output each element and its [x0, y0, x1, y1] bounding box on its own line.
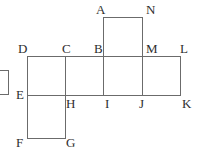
- vertex-label-j: J: [139, 97, 144, 110]
- vertex-label-h: H: [66, 97, 75, 110]
- vertex-label-k: K: [182, 97, 191, 110]
- vertex-label-c: C: [62, 42, 71, 55]
- vertex-label-f: F: [16, 136, 23, 149]
- vertex-label-g: G: [66, 136, 75, 149]
- vertex-label-i: I: [105, 97, 109, 110]
- segment-group: [0, 18, 181, 139]
- vertex-label-e: E: [16, 88, 24, 101]
- vertex-label-l: L: [180, 42, 188, 55]
- geometry-figure-canvas: ANDCBMLEHIJKFG: [0, 0, 206, 163]
- vertex-label-b: B: [94, 42, 103, 55]
- vertex-label-a: A: [96, 3, 105, 16]
- net-diagram-svg: [0, 0, 206, 163]
- vertex-label-m: M: [146, 42, 158, 55]
- vertex-label-d: D: [18, 42, 27, 55]
- vertex-label-n: N: [146, 3, 155, 16]
